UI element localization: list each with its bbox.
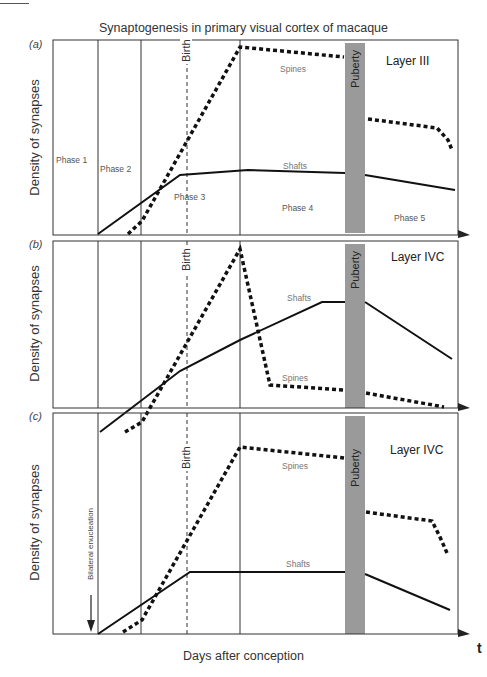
spines-line (368, 119, 452, 150)
panel-a (53, 40, 470, 238)
panel-b-puberty-label: Puberty (349, 251, 361, 289)
x-axis-label: Days after conception (0, 649, 487, 663)
panel-c-birth-label: Birth (180, 444, 192, 471)
shafts-line (365, 175, 455, 190)
spines-line (123, 447, 344, 632)
panel-b-spines-label: Spines (282, 373, 308, 383)
spines-line (366, 393, 444, 407)
panel-a-layer-label: Layer III (386, 54, 429, 68)
phase-3-label: Phase 3 (174, 192, 205, 202)
panel-a-spines-label: Spines (280, 64, 306, 74)
panel-a-puberty-label: Puberty (349, 50, 361, 88)
enucleation-arrow-head (87, 620, 95, 632)
panel-a-birth-label: Birth (180, 37, 192, 64)
panel-b-layer-label: Layer IVC (391, 250, 444, 264)
panel-c-layer-label: Layer IVC (390, 443, 443, 457)
panel-c-puberty-label: Puberty (349, 449, 361, 487)
shafts-line (365, 302, 452, 359)
panel-c-spines-label: Spines (282, 461, 308, 471)
panel-frame (53, 40, 458, 235)
shafts-line (365, 574, 450, 610)
spines-line (366, 512, 447, 553)
time-arrow-head (458, 230, 470, 238)
panel-b-birth-label: Birth (180, 246, 192, 273)
shafts-line (98, 170, 345, 234)
enucleation-label: Bilateral enucleation (86, 508, 95, 580)
panel-b (53, 241, 470, 432)
chart-svg (0, 0, 487, 677)
time-arrow-head (458, 629, 470, 637)
time-arrow-head (458, 403, 470, 411)
spines-line (125, 249, 344, 432)
panel-b-shafts-label: Shafts (287, 293, 311, 303)
time-symbol: t (477, 640, 482, 656)
phase-2-label: Phase 2 (100, 164, 131, 174)
panel-c-shafts-label: Shafts (286, 559, 310, 569)
phase-1-label: Phase 1 (56, 155, 87, 165)
phase-4-label: Phase 4 (282, 203, 313, 213)
panel-a-shafts-label: Shafts (283, 161, 307, 171)
phase-5-label: Phase 5 (394, 213, 425, 223)
